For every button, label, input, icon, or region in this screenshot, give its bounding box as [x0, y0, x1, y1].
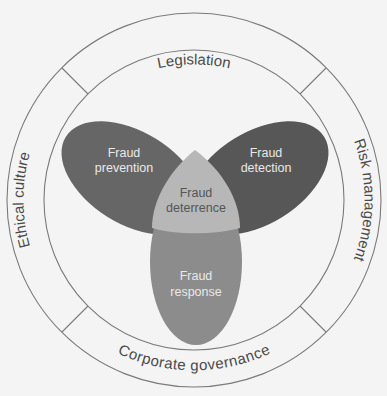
divider-top-right: [300, 68, 326, 94]
divider-top-left: [62, 68, 88, 94]
ring-label-risk-management: Risk management: [351, 136, 379, 265]
label-deterrence-line2: deterrence: [166, 201, 226, 215]
label-deterrence-line1: Fraud: [180, 186, 213, 200]
label-detection-line2: detection: [241, 161, 292, 175]
ring-label-ethical-culture: Ethical culture: [9, 150, 32, 250]
ring-label-corporate-governance: Corporate governance: [116, 340, 272, 373]
label-response-line1: Fraud: [180, 269, 213, 283]
label-prevention-line1: Fraud: [108, 146, 141, 160]
fraud-framework-diagram: Legislation Risk management Corporate go…: [0, 0, 387, 396]
label-prevention-line2: prevention: [95, 161, 153, 175]
divider-bottom-left: [62, 306, 88, 332]
label-response-line2: response: [170, 285, 221, 299]
ring-label-legislation: Legislation: [156, 50, 233, 71]
divider-bottom-right: [300, 306, 326, 332]
label-detection-line1: Fraud: [250, 146, 283, 160]
